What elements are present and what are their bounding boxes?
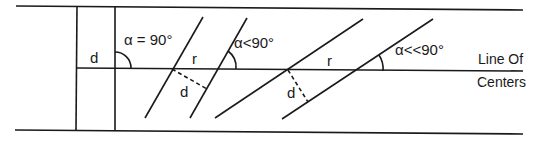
label-centers: Centers — [477, 74, 526, 90]
top-boundary-line — [16, 6, 523, 10]
angle-arc-lt90 — [228, 51, 236, 69]
label-alpha-lt90: α<90° — [234, 34, 274, 51]
label-r-middle: r — [192, 50, 197, 67]
line-of-centers-diagram: d α = 90° r α<90° d r α<<90° d Line Of C… — [0, 0, 538, 143]
label-r-right: r — [327, 52, 332, 69]
label-alpha-90: α = 90° — [124, 31, 172, 48]
dashed-distance-middle — [172, 69, 207, 89]
bottom-boundary-line — [15, 130, 523, 134]
angle-arc-llt90 — [379, 55, 383, 71]
label-d-middle: d — [180, 83, 188, 100]
line-of-centers — [77, 68, 523, 71]
diagram-canvas: d α = 90° r α<90° d r α<<90° d Line Of C… — [0, 0, 538, 143]
label-d-right: d — [287, 84, 295, 101]
label-alpha-llt90: α<<90° — [395, 41, 444, 58]
vertical-line-left — [76, 6, 77, 130]
angle-arc-90 — [115, 52, 131, 68]
label-d-left: d — [90, 49, 98, 66]
label-line-of: Line Of — [478, 51, 523, 67]
